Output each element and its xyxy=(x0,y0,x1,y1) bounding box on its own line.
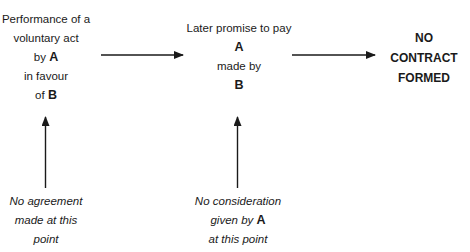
node-line: made by xyxy=(180,57,298,76)
line-prefix: given by xyxy=(210,214,256,226)
node-line: Later promise to pay xyxy=(180,19,298,38)
note-line: given by A xyxy=(190,211,286,230)
node-line: CONTRACT xyxy=(378,48,470,68)
note-no-agreement: No agreement made at this point xyxy=(0,192,92,249)
node-line: A xyxy=(180,38,298,57)
line-prefix: of xyxy=(35,89,48,101)
node-line: NO xyxy=(378,28,470,48)
party-label: A xyxy=(234,40,243,54)
party-label: A xyxy=(257,213,266,227)
node-line: FORMED xyxy=(378,68,470,88)
note-no-consideration: No consideration given by A at this poin… xyxy=(190,192,286,249)
node-line: voluntary act xyxy=(0,29,92,48)
note-line: point xyxy=(0,230,92,249)
note-line: No consideration xyxy=(190,192,286,211)
node-line: by A xyxy=(0,48,92,67)
party-label: A xyxy=(49,50,58,64)
line-prefix: by xyxy=(34,51,49,63)
node-line: B xyxy=(180,76,298,95)
node-no-contract-formed: NO CONTRACT FORMED xyxy=(378,28,470,88)
party-label: B xyxy=(48,88,57,102)
node-line: in favour xyxy=(0,67,92,86)
node-line: of B xyxy=(0,86,92,105)
party-label: B xyxy=(234,78,243,92)
note-line: No agreement xyxy=(0,192,92,211)
node-line: Performance of a xyxy=(0,10,92,29)
note-line: at this point xyxy=(190,230,286,249)
node-voluntary-act: Performance of a voluntary act by A in f… xyxy=(0,10,92,105)
node-later-promise: Later promise to pay A made by B xyxy=(180,19,298,95)
note-line: made at this xyxy=(0,211,92,230)
